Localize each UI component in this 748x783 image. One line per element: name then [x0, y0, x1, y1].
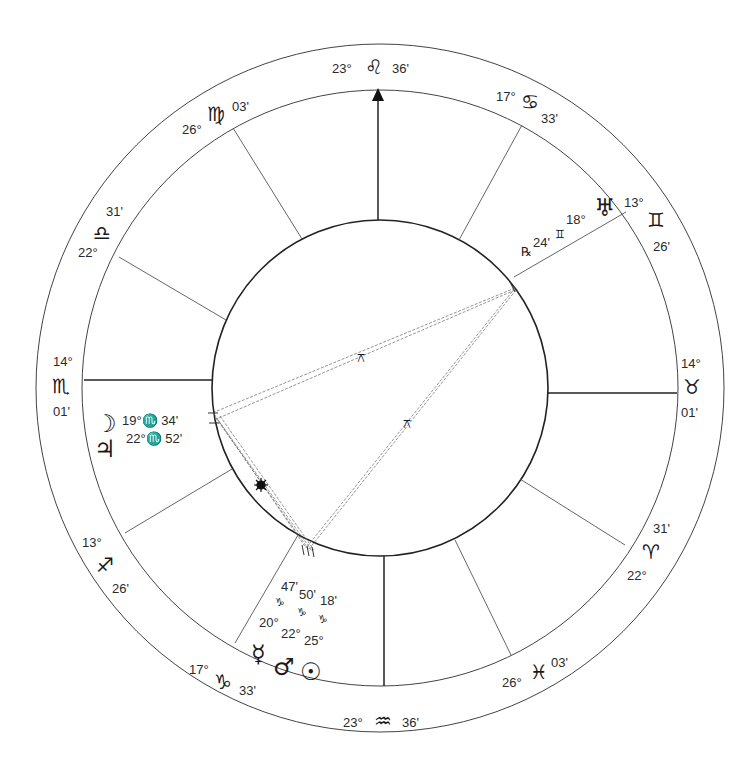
jupiter-icon: ♃ [94, 437, 116, 461]
cusp-2-degree: 22° [627, 569, 647, 582]
cusp-5-degree: 17° [189, 663, 209, 676]
cusp-9-minutes: 03' [232, 100, 249, 113]
cusp-ic-minutes: 36' [402, 716, 419, 729]
cusp-6-minutes: 26' [112, 582, 129, 595]
mercury-degree: 20° [259, 616, 279, 629]
outer-ring [36, 44, 724, 732]
cusp-8-minutes: 31' [106, 205, 123, 218]
sun-minutes: 18' [320, 594, 337, 607]
mars-minutes: 50' [299, 588, 316, 601]
uranus-degree: 18° [566, 213, 586, 226]
planet-ticks [208, 282, 515, 557]
moon-icon: ☽ [95, 412, 117, 436]
aspect-lines [212, 288, 516, 551]
cusp-dsc-degree: 14° [53, 355, 73, 368]
cusp-12-minutes: 26' [653, 240, 670, 253]
cusp-mc-minutes: 36' [392, 62, 409, 75]
cusp-ic-degree: 23° [343, 716, 363, 729]
sun-icon: ☉ [300, 660, 322, 684]
mars-sign-capricorn-icon: ♑ [297, 607, 307, 618]
uranus-sign-gemini-icon: ♊ [555, 229, 565, 240]
cusp-8-degree: 22° [78, 246, 98, 259]
mars-degree: 22° [281, 627, 301, 640]
cancer-icon: ♋ [521, 92, 539, 112]
cusp-9-degree: 26° [182, 123, 202, 136]
mars-icon: ♂ [273, 655, 295, 679]
jupiter-position: 22°♏ 52' [126, 432, 182, 445]
virgo-icon: ♍ [207, 104, 225, 124]
cusp-mc-degree: 23° [332, 62, 352, 75]
aries-icon: ♈ [642, 542, 660, 562]
cusp-asc-minutes: 01' [681, 406, 698, 419]
mercury-sign-capricorn-icon: ♑ [275, 597, 285, 608]
cusp-3-minutes: 03' [551, 656, 568, 669]
moon-position: 19°♏ 34' [122, 414, 178, 427]
uranus-minutes: 24' [533, 236, 550, 249]
aquarius-icon: ♒ [374, 711, 392, 731]
cusp-dsc-minutes: 01' [53, 405, 70, 418]
aspect-star-icon [254, 478, 268, 492]
cusp-3-degree: 26° [502, 676, 522, 689]
scorpio-icon: ♏ [52, 376, 70, 396]
cusp-asc-degree: 14° [681, 357, 701, 370]
house-cusp-lines [119, 125, 626, 655]
cusp-6-degree: 13° [82, 536, 102, 549]
cusp-5-minutes: 33' [239, 684, 256, 697]
cusp-2-minutes: 31' [653, 522, 670, 535]
mercury-minutes: 47' [281, 580, 298, 593]
cusp-11-minutes: 33' [541, 112, 558, 125]
pisces-icon: ♓ [530, 662, 548, 682]
mercury-icon: ☿ [251, 642, 266, 666]
gemini-icon: ♊ [647, 210, 665, 230]
taurus-icon: ♉ [683, 377, 701, 397]
sun-degree: 25° [304, 634, 324, 647]
retrograde-icon: ℞ [521, 246, 532, 258]
inner-circle [212, 220, 548, 556]
sagittarius-icon: ♐ [96, 555, 114, 575]
natal-chart-wheel [0, 0, 748, 783]
zodiac-inner-ring [82, 90, 678, 686]
leo-icon: ♌ [365, 57, 383, 77]
quincunx-marker-icon: ⚻ [357, 352, 365, 364]
libra-icon: ♎ [93, 223, 111, 243]
uranus-icon: ♅ [594, 196, 616, 220]
quincunx-marker-icon: ⚻ [403, 418, 411, 430]
capricorn-icon: ♑ [214, 672, 232, 692]
cusp-11-degree: 17° [496, 90, 516, 103]
angle-axes [84, 100, 677, 686]
sun-sign-capricorn-icon: ♑ [318, 614, 328, 625]
cusp-12-degree: 13° [624, 196, 644, 209]
